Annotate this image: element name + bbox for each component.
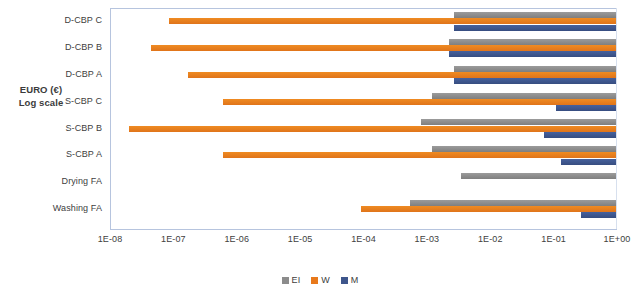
bar-group: [111, 197, 617, 224]
x-tick-label: 1E-06: [224, 234, 249, 244]
bar-w: [223, 152, 617, 158]
bar-ei: [461, 173, 617, 179]
category-label: Drying FA: [30, 176, 102, 186]
legend-swatch-icon: [341, 277, 348, 284]
x-axis-tick-labels: 1E-081E-071E-061E-051E-041E-031E-021E-01…: [0, 234, 640, 248]
bar-ei: [454, 66, 617, 72]
bar-m: [454, 25, 617, 31]
bar-group: [111, 36, 617, 63]
legend-label: M: [351, 275, 359, 285]
x-tick-label: 1E-04: [351, 234, 376, 244]
x-tick-label: 1E-08: [98, 234, 123, 244]
bar-w: [129, 126, 617, 132]
bar-w: [169, 18, 617, 24]
x-tick-label: 1E-03: [415, 234, 440, 244]
category-label: D-CBP B: [30, 42, 102, 52]
bar-group: [111, 170, 617, 197]
x-tick-label: 1E-07: [161, 234, 186, 244]
category-label: S-CBP B: [30, 123, 102, 133]
legend-label: W: [321, 275, 330, 285]
bar-ei: [454, 12, 617, 18]
bar-ei: [449, 39, 617, 45]
bar-group: [111, 9, 617, 36]
bar-w: [151, 45, 617, 51]
bar-m: [454, 78, 617, 84]
category-label: Washing FA: [30, 203, 102, 213]
legend-item[interactable]: M: [341, 275, 359, 285]
bar-group: [111, 116, 617, 143]
chart-legend: EIWM: [0, 275, 640, 285]
category-label: D-CBP C: [30, 15, 102, 25]
x-tick-label: 1E-01: [541, 234, 566, 244]
legend-item[interactable]: EI: [282, 275, 301, 285]
legend-swatch-icon: [282, 277, 289, 284]
bar-group: [111, 63, 617, 90]
x-axis-line: [110, 229, 617, 230]
bar-m: [556, 105, 617, 111]
log-scale-range-bar-chart: EURO (€) Log scale D-CBP CD-CBP BD-CBP A…: [0, 0, 640, 294]
bar-m: [581, 212, 617, 218]
bar-w: [223, 99, 617, 105]
x-tick-label: 1E-05: [288, 234, 313, 244]
bar-group: [111, 143, 617, 170]
category-axis-labels: D-CBP CD-CBP BD-CBP AS-CBP CS-CBP BS-CBP…: [34, 8, 106, 223]
x-tick-label: 1E-02: [478, 234, 503, 244]
bar-ei: [410, 200, 617, 206]
bar-ei: [432, 93, 617, 99]
plot-right-edge: [616, 8, 617, 230]
bar-m: [544, 132, 617, 138]
legend-swatch-icon: [311, 277, 318, 284]
plot-area: [110, 8, 617, 230]
legend-label: EI: [292, 275, 301, 285]
legend-item[interactable]: W: [311, 275, 330, 285]
bar-m: [561, 159, 617, 165]
bar-ei: [421, 119, 617, 125]
bar-w: [361, 206, 617, 212]
category-label: S-CBP A: [30, 149, 102, 159]
bar-ei: [432, 146, 617, 152]
bar-m: [449, 51, 617, 57]
x-tick-label: 1E+00: [604, 234, 631, 244]
bar-group: [111, 89, 617, 116]
category-label: D-CBP A: [30, 69, 102, 79]
bar-w: [188, 72, 617, 78]
category-label: S-CBP C: [30, 96, 102, 106]
